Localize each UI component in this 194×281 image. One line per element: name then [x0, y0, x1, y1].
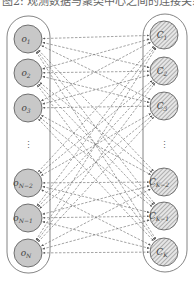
- edge-line: [41, 42, 151, 101]
- edge-line: [42, 39, 149, 69]
- edge-line: [43, 222, 150, 249]
- bipartite-diagram: o1o2o3oN−2oN−1oN C1C2C3CK−2CK−1CK ⋮ ⋮: [0, 0, 194, 281]
- edge-line: [43, 42, 150, 67]
- edge-line: [42, 220, 149, 249]
- edge-line: [41, 189, 150, 246]
- edges-group: [36, 35, 156, 252]
- edge-line: [41, 46, 150, 100]
- edge-line: [43, 186, 150, 214]
- edge-line: [43, 35, 149, 38]
- edge-line: [43, 182, 149, 183]
- edge-line: [41, 115, 151, 175]
- edge-line: [43, 187, 150, 213]
- left-ellipsis: ⋮: [24, 140, 33, 150]
- edge-line: [43, 106, 149, 108]
- edge-line: [43, 252, 149, 253]
- right-ellipsis: ⋮: [160, 140, 169, 150]
- edge-line: [40, 81, 153, 174]
- edge-line: [42, 75, 149, 104]
